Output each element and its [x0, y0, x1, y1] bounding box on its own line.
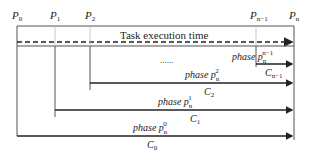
cost-label-0: C0 [147, 140, 157, 152]
cost-label-1: C1 [190, 114, 200, 126]
cost-label-2: C2 [204, 87, 214, 99]
process-label-p2: P2 [85, 10, 95, 23]
phase-label-n1: phase pnn−1 [232, 50, 273, 65]
cost-label-n1: Cn−1 [265, 68, 283, 80]
ellipsis: ...... [160, 56, 174, 65]
process-label-pn: Pn [289, 10, 299, 23]
task-execution-time-label: Task execution time [120, 30, 208, 41]
process-label-p0: P0 [12, 10, 22, 23]
process-label-p1: P1 [50, 10, 60, 23]
phase-label-2: phase pn2 [185, 68, 219, 83]
phase-label-1: phase pn1 [158, 95, 192, 110]
phase-label-0: phase pn0 [133, 121, 167, 136]
process-label-pn1: Pn−1 [250, 10, 268, 23]
